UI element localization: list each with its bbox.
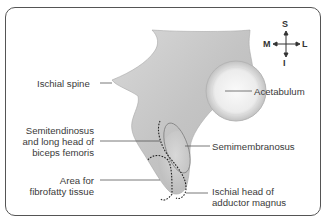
label-area-1: Area for [60,175,94,186]
compass-superior: S [282,19,288,29]
label-semitendinosus-1: Semitendinosus [26,125,94,136]
label-semitendinosus-3: biceps femoris [32,147,94,158]
orientation-compass [273,31,300,57]
label-acetabulum: Acetabulum [254,86,305,97]
compass-lateral: L [302,39,308,49]
label-adductor-2: adductor magnus [212,197,286,208]
label-ischial-spine: Ischial spine [37,78,90,89]
compass-medial: M [263,39,271,49]
label-adductor-1: Ischial head of [212,186,274,197]
label-area-2: fibrofatty tissue [29,186,94,197]
compass-inferior: I [283,58,286,68]
label-semimembranosus: Semimembranosus [212,141,295,152]
label-semitendinosus-2: and long head of [23,136,95,147]
